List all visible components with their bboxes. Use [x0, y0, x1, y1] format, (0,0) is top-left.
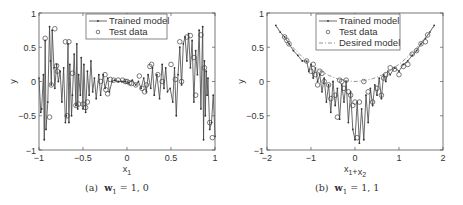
trained-model-marker	[385, 81, 387, 83]
trained-model-marker	[87, 70, 89, 72]
trained-model-marker	[332, 81, 334, 83]
trained-model-marker	[43, 139, 45, 141]
trained-model-marker	[376, 94, 378, 96]
trained-model-marker	[43, 74, 45, 76]
trained-model-marker	[143, 77, 145, 79]
trained-model-marker	[275, 24, 277, 26]
trained-model-marker	[195, 50, 197, 52]
test-data-point	[362, 79, 367, 84]
test-data-point	[53, 26, 58, 31]
trained-model-marker	[114, 79, 116, 81]
figure-b: −2−1012−1−0.500.51yx1+x2Trained modelTes…	[232, 0, 463, 205]
trained-model-marker	[41, 108, 43, 110]
trained-model-marker	[94, 77, 96, 79]
chart-a: −1−0.500.51−1−0.500.51yx1Trained modelTe…	[0, 0, 232, 180]
trained-model-marker	[50, 84, 52, 86]
x-tick-label: 0.5	[165, 153, 178, 163]
caption-b-math: w	[335, 182, 343, 193]
trained-model-marker	[78, 74, 80, 76]
trained-model-marker	[65, 122, 67, 124]
trained-model-marker	[85, 111, 87, 113]
y-tick-label: 0	[31, 77, 36, 87]
trained-model-marker	[191, 40, 193, 42]
y-tick-label: 0.5	[251, 43, 264, 53]
trained-model-marker	[174, 67, 176, 69]
trained-model-marker	[65, 115, 67, 117]
trained-model-marker	[361, 108, 363, 110]
y-tick-label: 1	[259, 9, 264, 19]
trained-model-marker	[204, 60, 206, 62]
test-data-point	[70, 71, 75, 76]
test-data-point	[329, 96, 334, 101]
trained-model-marker	[370, 87, 372, 89]
trained-model-marker	[367, 122, 369, 124]
trained-model-marker	[398, 70, 400, 72]
trained-model-marker	[212, 94, 214, 96]
x-tick-label: −1	[306, 153, 316, 163]
trained-model-marker	[343, 101, 345, 103]
trained-model-marker	[71, 115, 73, 117]
trained-model-marker	[348, 122, 350, 124]
trained-model-marker	[179, 46, 181, 48]
trained-model-marker	[92, 91, 94, 93]
trained-model-marker	[163, 87, 165, 89]
trained-model-marker	[337, 87, 339, 89]
test-data-point	[178, 39, 183, 44]
legend: Trained modelTest data	[86, 14, 169, 39]
trained-model-marker	[206, 94, 208, 96]
trained-model-marker	[189, 67, 191, 69]
x-axis-label: x1	[123, 164, 132, 176]
x-tick-label: 1	[212, 153, 217, 163]
trained-model-marker	[72, 94, 74, 96]
x-tick-label: 2	[440, 153, 445, 163]
trained-model-marker	[175, 115, 177, 117]
y-tick-label: 1	[31, 9, 36, 19]
test-data-point	[335, 115, 340, 120]
y-tick-label: 0.5	[23, 43, 36, 53]
trained-model-marker	[63, 67, 65, 69]
legend-label: Trained model	[339, 15, 399, 26]
trained-model-marker	[57, 81, 59, 83]
legend-marker	[327, 20, 329, 22]
trained-model-marker	[330, 111, 332, 113]
test-data-point	[137, 74, 142, 79]
trained-model-marker	[420, 43, 422, 45]
x-tick-label: 1	[396, 153, 401, 163]
x-tick-label: 0	[124, 153, 129, 163]
test-data-point	[169, 62, 174, 67]
caption-b-prefix: (b)	[315, 182, 329, 193]
trained-model-marker	[297, 55, 299, 57]
trained-model-marker	[147, 74, 149, 76]
trained-model-marker	[172, 101, 174, 103]
trained-model-marker	[378, 77, 380, 79]
trained-model-marker	[80, 57, 82, 59]
legend-marker	[97, 20, 99, 22]
trained-model-marker	[204, 115, 206, 117]
trained-model-marker	[209, 129, 211, 131]
trained-model-marker	[150, 87, 152, 89]
trained-model-marker	[197, 74, 199, 76]
trained-model-marker	[68, 122, 70, 124]
trained-model-marker	[207, 77, 209, 79]
y-tick-label: −1	[26, 146, 36, 156]
legend-label: Trained model	[109, 15, 169, 26]
trained-model-marker	[321, 91, 323, 93]
trained-model-marker	[323, 77, 325, 79]
caption-b-rest: = 1, 1	[347, 182, 379, 193]
test-data-point	[105, 92, 110, 97]
trained-model-marker	[359, 142, 361, 144]
trained-model-marker	[182, 43, 184, 45]
trained-model-marker	[131, 79, 133, 81]
trained-model-marker	[389, 74, 391, 76]
y-axis-label: y	[236, 79, 246, 84]
trained-model-marker	[374, 84, 376, 86]
chart-b: −2−1012−1−0.500.51yx1+x2Trained modelTes…	[232, 0, 463, 180]
trained-model-marker	[40, 111, 42, 113]
test-data-point	[67, 39, 72, 44]
trained-model-marker	[205, 70, 207, 72]
trained-model-marker	[365, 94, 367, 96]
x-axis-label: x1+x2	[344, 164, 366, 178]
trained-model-marker	[83, 63, 85, 65]
trained-model-marker	[100, 94, 102, 96]
trained-model-marker	[381, 98, 383, 100]
